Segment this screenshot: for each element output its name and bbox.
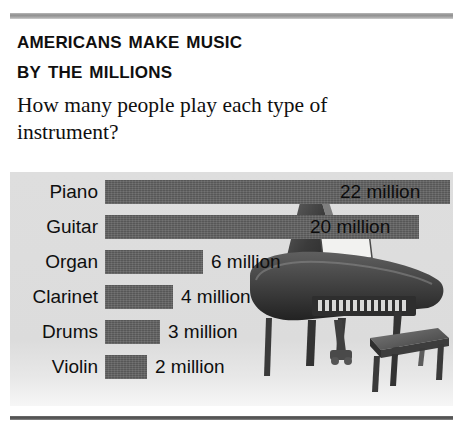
bar-value-label: 2 million [155, 356, 225, 378]
bar-chart-panel: Piano 22 million Guitar 20 million Organ… [10, 172, 453, 406]
category-label: Clarinet [10, 286, 98, 308]
category-label: Organ [10, 251, 98, 273]
chart-row: Violin 2 million [10, 355, 453, 379]
bar [105, 250, 203, 274]
page-title-line-2: By the Millions [17, 55, 437, 85]
category-label: Guitar [10, 216, 98, 238]
bar [105, 320, 160, 344]
bar-value-label: 3 million [168, 321, 238, 343]
category-label: Violin [10, 356, 98, 378]
infographic-page: Americans Make Music By the Millions How… [0, 0, 459, 429]
chart-row: Drums 3 million [10, 320, 453, 344]
chart-row: Organ 6 million [10, 250, 453, 274]
bar-value-label: 22 million [340, 181, 420, 203]
chart-row: Guitar 20 million [10, 215, 453, 239]
top-divider-rule [10, 13, 453, 19]
page-title: Americans Make Music By the Millions [17, 25, 437, 85]
bottom-divider-rule [10, 416, 453, 420]
page-title-line-1: Americans Make Music [17, 25, 437, 55]
bar-value-label: 6 million [211, 251, 281, 273]
chart-row: Piano 22 million [10, 180, 453, 204]
page-subtitle: How many people play each type of instru… [17, 92, 417, 146]
bar [105, 355, 147, 379]
bar-value-label: 20 million [310, 216, 390, 238]
chart-row: Clarinet 4 million [10, 285, 453, 309]
bar [105, 285, 173, 309]
bar-value-label: 4 million [181, 286, 251, 308]
category-label: Piano [10, 181, 98, 203]
category-label: Drums [10, 321, 98, 343]
